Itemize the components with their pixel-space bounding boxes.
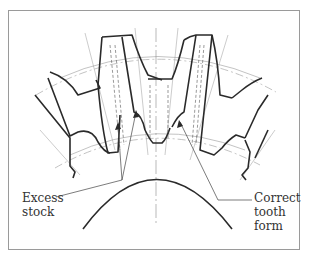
correct-tooth-form-line-1: Correct (254, 191, 301, 205)
excess-stock-label: Excess stock (22, 191, 64, 219)
excess-stock-line-2: stock (22, 205, 64, 219)
base-circle-arc (83, 180, 232, 230)
hidden-lines (110, 45, 204, 150)
correct-tooth-form-label: Correct tooth form (254, 191, 301, 233)
correct-tooth-form-line-3: form (254, 219, 301, 233)
excess-stock-line-1: Excess (22, 191, 64, 205)
correct-tooth-form-line-2: tooth (254, 205, 301, 219)
diagram-figure: Excess stock Correct tooth form (0, 0, 311, 258)
leader-lines (56, 112, 252, 200)
